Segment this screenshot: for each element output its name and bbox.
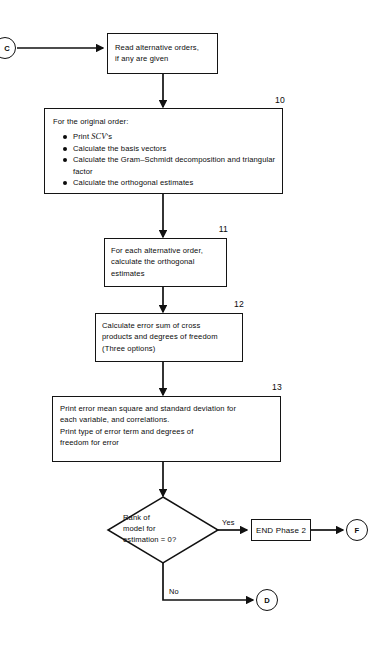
decision-text: Rank of model for estimation = 0? bbox=[123, 512, 209, 546]
node-step10-heading: For the original order: bbox=[53, 116, 278, 127]
list-item: Calculate the basis vectors bbox=[62, 143, 280, 155]
list-item: Calculate the orthogonal estimates bbox=[62, 177, 280, 189]
step-number-12: 12 bbox=[204, 299, 244, 309]
list-item: Calculate the Gram–Schmidt decomposition… bbox=[62, 154, 280, 177]
node-step11-text: For each alternative order, calculate th… bbox=[111, 245, 225, 279]
node-read-alternative-orders-text: Read alternative orders, if any are give… bbox=[115, 42, 215, 65]
node-end-phase-2-label: END Phase 2 bbox=[256, 526, 306, 535]
bullet-10-1-pre: Print bbox=[73, 132, 91, 141]
connector-exit-d: D bbox=[256, 589, 278, 611]
bullet-10-4-pre: Calculate the orthogonal estimates bbox=[73, 178, 193, 187]
bullet-10-1-post: ’s bbox=[107, 132, 113, 141]
connector-entry-c: C bbox=[0, 37, 16, 59]
connector-exit-f-label: F bbox=[355, 526, 360, 535]
connector-exit-f: F bbox=[346, 519, 368, 541]
bullet-10-1-emph: SCV bbox=[91, 132, 106, 141]
connector-exit-d-label: D bbox=[264, 596, 270, 605]
step-number-11: 11 bbox=[188, 224, 228, 234]
list-item: Print SCV’s bbox=[62, 131, 280, 143]
node-step13-text: Print error mean square and standard dev… bbox=[60, 403, 278, 449]
node-step10-bullet-list: Print SCV’s Calculate the basis vectors … bbox=[62, 131, 280, 189]
node-step12-text: Calculate error sum of cross products an… bbox=[102, 320, 242, 354]
edge-label-yes: Yes bbox=[222, 518, 235, 527]
step-number-10: 10 bbox=[245, 95, 285, 105]
step-number-13: 13 bbox=[242, 382, 282, 392]
connector-entry-c-label: C bbox=[4, 44, 10, 53]
bullet-10-2-pre: Calculate the basis vectors bbox=[73, 144, 166, 153]
edge-label-no: No bbox=[169, 587, 179, 596]
flowchart-canvas: C Read alternative orders, if any are gi… bbox=[0, 0, 388, 648]
bullet-10-3-pre: Calculate the Gram–Schmidt decomposition… bbox=[73, 155, 275, 176]
node-end-phase-2: END Phase 2 bbox=[251, 519, 311, 541]
